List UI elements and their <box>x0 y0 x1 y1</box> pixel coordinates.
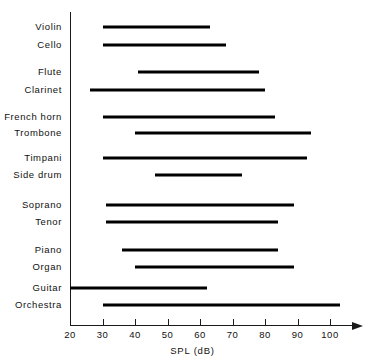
plot-area: ViolinCelloFluteClarinetFrench hornTromb… <box>0 0 385 364</box>
spl-range-chart: ViolinCelloFluteClarinetFrench hornTromb… <box>0 0 385 364</box>
category-label: Cello <box>37 40 62 50</box>
category-label: Clarinet <box>24 85 62 95</box>
range-bar <box>103 157 308 160</box>
category-label: Guitar <box>33 283 62 293</box>
category-label: Organ <box>33 262 62 272</box>
x-axis-tick <box>168 319 169 325</box>
x-axis-tick <box>103 319 104 325</box>
x-axis-tick <box>330 319 331 325</box>
category-label: Flute <box>38 67 62 77</box>
x-axis-tick-label: 60 <box>194 330 206 340</box>
category-label: Orchestra <box>15 300 62 310</box>
x-axis-tick <box>70 319 71 325</box>
category-label: Side drum <box>13 170 62 180</box>
x-axis-tick <box>265 319 266 325</box>
range-bar <box>106 204 295 207</box>
range-bar <box>122 249 278 252</box>
range-bar <box>103 304 340 307</box>
x-axis-tick-label: 90 <box>292 330 304 340</box>
x-axis-tick-label: 30 <box>97 330 109 340</box>
range-bar <box>103 44 227 47</box>
x-axis-tick-label: 100 <box>321 330 338 340</box>
range-bar <box>106 221 278 224</box>
y-axis-line <box>70 12 71 325</box>
range-bar <box>135 132 311 135</box>
category-label: Soprano <box>22 200 62 210</box>
range-bar <box>135 266 294 269</box>
x-axis-line <box>70 325 355 326</box>
category-label: Violin <box>35 22 62 32</box>
category-label: Tenor <box>35 217 62 227</box>
x-axis-tick-label: 40 <box>129 330 141 340</box>
range-bar <box>103 26 210 29</box>
category-label: Piano <box>35 245 62 255</box>
x-axis-tick <box>135 319 136 325</box>
range-bar <box>103 116 275 119</box>
x-axis-tick <box>298 319 299 325</box>
range-bar <box>155 174 243 177</box>
x-axis-tick-label: 80 <box>259 330 271 340</box>
range-bar <box>138 71 258 74</box>
range-bar <box>70 287 207 290</box>
x-axis-arrow-icon <box>352 322 363 330</box>
x-axis-tick-label: 70 <box>227 330 239 340</box>
category-label: French horn <box>4 112 62 122</box>
x-axis-title: SPL (dB) <box>0 345 385 356</box>
range-bar <box>90 89 266 92</box>
x-axis-tick <box>233 319 234 325</box>
x-axis-tick <box>200 319 201 325</box>
x-axis-tick-label: 20 <box>64 330 76 340</box>
category-label: Trombone <box>14 128 62 138</box>
x-axis-tick-label: 50 <box>162 330 174 340</box>
category-label: Timpani <box>24 153 62 163</box>
